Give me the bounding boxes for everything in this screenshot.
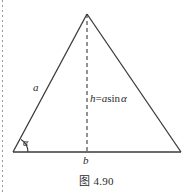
angle-label-alpha: α xyxy=(23,138,28,148)
figure-container: a b α h=asin α 图 4.90 xyxy=(0,0,193,193)
triangle-left-side xyxy=(13,14,87,152)
figure-caption: 图 4.90 xyxy=(0,172,193,188)
formula-alpha: α xyxy=(121,92,127,104)
formula-sin: sin xyxy=(107,92,120,104)
height-formula: h=asin α xyxy=(90,93,127,104)
triangle-right-side xyxy=(87,14,181,152)
base-label-b: b xyxy=(83,155,89,166)
side-label-a: a xyxy=(33,82,39,93)
